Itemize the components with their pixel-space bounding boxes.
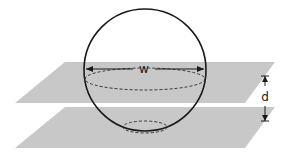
width-label: w (139, 62, 149, 76)
lower-plane (15, 107, 275, 148)
sphere-planes-diagram: w d (0, 0, 285, 158)
distance-label: d (261, 90, 269, 104)
